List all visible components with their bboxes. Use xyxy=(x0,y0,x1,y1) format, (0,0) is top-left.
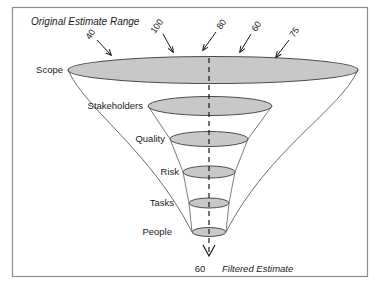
stage-label-risk: Risk xyxy=(161,166,180,177)
figure-container: 40 100 80 60 75 Original Estimate Range … xyxy=(0,0,380,286)
stage-label-tasks: Tasks xyxy=(150,197,175,208)
filtered-estimate-value: 60 xyxy=(195,263,206,274)
stage-ellipse-scope xyxy=(68,57,358,84)
estimating-funnel-diagram: 40 100 80 60 75 Original Estimate Range … xyxy=(0,0,380,286)
stage-label-stakeholders: Stakeholders xyxy=(88,100,144,111)
filtered-estimate-caption: Filtered Estimate xyxy=(222,263,293,274)
stage-label-people: People xyxy=(142,226,172,237)
stage-label-quality: Quality xyxy=(135,133,165,144)
stage-label-scope: Scope xyxy=(36,64,63,75)
figure-title: Original Estimate Range xyxy=(31,16,140,27)
stage-ellipse-stakeholders xyxy=(148,97,272,116)
